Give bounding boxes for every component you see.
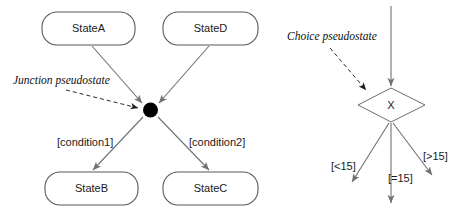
state-label-c: StateC bbox=[194, 182, 228, 194]
state-node-d[interactable]: StateD bbox=[163, 12, 258, 45]
choice-annotation-leader bbox=[330, 48, 366, 90]
guard-label-less-than: [<15] bbox=[331, 160, 356, 172]
transition-stated-to-junction bbox=[159, 46, 209, 103]
choice-pseudostate-diamond[interactable]: X bbox=[358, 88, 425, 122]
junction-pseudostate-dot[interactable] bbox=[143, 103, 158, 118]
guard-label-equal: [=15] bbox=[388, 172, 413, 184]
choice-diamond-label: X bbox=[387, 99, 395, 111]
guard-label-condition1: [condition1] bbox=[57, 136, 113, 148]
uml-pseudostate-diagram: StateA StateD StateB StateC Junction pse… bbox=[0, 0, 459, 215]
guard-label-greater-than: [>15] bbox=[423, 150, 448, 162]
state-label-a: StateA bbox=[72, 22, 106, 34]
choice-annotation-label: Choice pseudostate bbox=[287, 30, 377, 43]
junction-annotation-label: Junction pseudostate bbox=[13, 74, 110, 87]
transition-choice-less-than bbox=[352, 123, 389, 182]
transition-choice-greater-than bbox=[393, 123, 432, 175]
state-label-d: StateD bbox=[194, 22, 228, 34]
state-node-a[interactable]: StateA bbox=[42, 12, 135, 45]
junction-annotation-leader bbox=[66, 90, 138, 108]
state-node-b[interactable]: StateB bbox=[45, 172, 138, 205]
state-label-b: StateB bbox=[75, 182, 108, 194]
guard-label-condition2: [condition2] bbox=[189, 136, 245, 148]
state-node-c[interactable]: StateC bbox=[163, 172, 258, 205]
diagram-canvas: StateA StateD StateB StateC Junction pse… bbox=[0, 0, 459, 215]
